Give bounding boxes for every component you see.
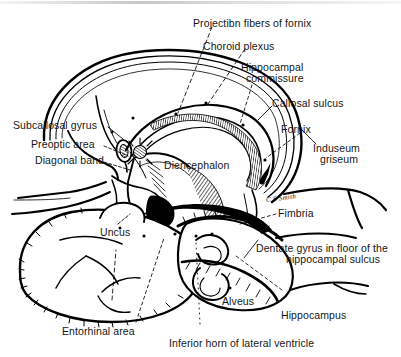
label-entorhinal-area: Entorhinal area — [62, 326, 135, 338]
figure-canvas: Projectibn fibers of fornix Choroid plex… — [0, 0, 401, 357]
label-projection-fibers-of-fornix: Projectibn fibers of fornix — [193, 18, 311, 30]
label-choroid-plexus: Choroid plexus — [203, 41, 274, 53]
label-diagonal-band: Diagonal band — [35, 155, 104, 167]
label-hippocampus: Hippocampus — [281, 310, 346, 322]
outline-right-mid — [276, 234, 356, 239]
leader-callosal-sulcus — [258, 106, 272, 120]
label-dentate-gyrus-line2: hippocampal sulcus — [286, 254, 380, 266]
leader-subcallosal-gyrus — [108, 127, 123, 139]
label-uncus: Uncus — [100, 227, 130, 239]
tentorial-line-branch — [348, 190, 362, 228]
label-inferior-horn-of-lateral-ventricle: Inferior horn of lateral ventricle — [169, 338, 314, 350]
label-induseum-griseum-line2: griseum — [320, 154, 358, 166]
label-hippocampal-commissure-line2: commissure — [246, 73, 304, 85]
leader-hippocampal-commissure — [240, 85, 252, 124]
label-fimbria: Fimbria — [278, 208, 314, 220]
brain-section-drawing — [0, 0, 401, 357]
label-diencephalon: Diencephalon — [164, 160, 229, 172]
label-preoptic-area: Preoptic area — [31, 139, 95, 151]
ink-group — [12, 27, 386, 327]
label-fornix: Fornix — [281, 124, 311, 136]
label-callosal-sulcus: Callosal sulcus — [272, 98, 344, 110]
label-subcallosal-gyrus: Subcallosal gyrus — [13, 120, 97, 132]
outline-right-lower — [290, 283, 368, 290]
optic-nerve-upper — [18, 182, 106, 198]
label-alveus: Alveus — [222, 296, 254, 308]
